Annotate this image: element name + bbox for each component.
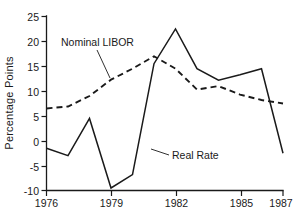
x-tick-label-1987: 1987 xyxy=(269,197,293,209)
y-tick-label-10: 10 xyxy=(27,86,39,98)
line-chart: 25 20 15 10 5 0 -5 -10 1976 1979 1982 19… xyxy=(0,0,298,217)
y-tick-label-minus10: -10 xyxy=(24,185,39,197)
annotation-label-real-rate: Real Rate xyxy=(172,149,219,161)
y-tick-label-25: 25 xyxy=(27,11,39,23)
y-tick-label-20: 20 xyxy=(27,36,39,48)
annotation-label-nominal-libor: Nominal LIBOR xyxy=(61,36,134,48)
x-tick-label-1985: 1985 xyxy=(230,197,254,209)
x-tick-label-1976: 1976 xyxy=(35,197,59,209)
chart-container: 25 20 15 10 5 0 -5 -10 1976 1979 1982 19… xyxy=(0,0,298,217)
y-tick-label-5: 5 xyxy=(33,111,39,123)
x-tick-label-1982: 1982 xyxy=(165,197,189,209)
y-tick-label-0: 0 xyxy=(33,136,39,148)
y-tick-label-15: 15 xyxy=(27,61,39,73)
y-tick-label-minus5: -5 xyxy=(30,161,39,173)
chart-background xyxy=(0,0,298,217)
x-tick-label-1979: 1979 xyxy=(100,197,124,209)
y-axis-title: Percentage Points xyxy=(3,56,15,150)
